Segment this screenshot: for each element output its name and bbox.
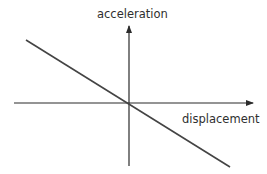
x-axis-label: displacement bbox=[182, 114, 260, 126]
diagram-svg bbox=[0, 0, 267, 174]
y-axis-label: acceleration bbox=[97, 9, 168, 21]
acceleration-displacement-diagram: acceleration displacement bbox=[0, 0, 267, 174]
